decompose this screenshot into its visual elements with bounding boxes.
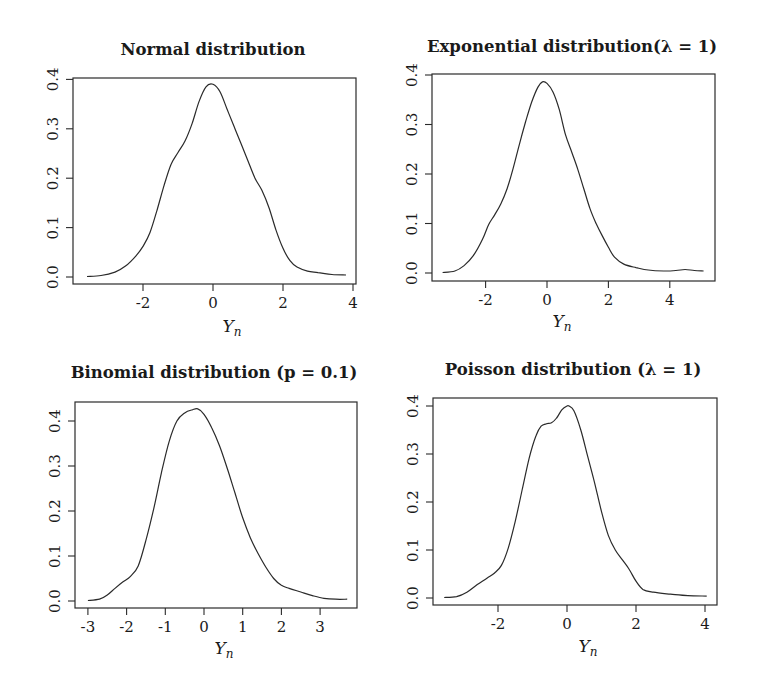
y-tick-label: 0.0 bbox=[403, 261, 421, 285]
y-tick-label: 0.3 bbox=[44, 117, 62, 141]
y-tick-label: 0.2 bbox=[403, 162, 421, 186]
x-tick-label: -2 bbox=[478, 291, 493, 309]
y-tick-label: 0.4 bbox=[403, 63, 421, 87]
x-tick-label: 0 bbox=[208, 294, 218, 312]
x-tick-label: -1 bbox=[158, 618, 173, 636]
y-tick-label: 0.3 bbox=[404, 442, 422, 466]
density-curve bbox=[87, 84, 346, 277]
x-tick-label: -2 bbox=[491, 615, 506, 633]
y-tick-label: 0.2 bbox=[404, 490, 422, 514]
plot-frame bbox=[432, 74, 715, 281]
x-tick-label: 4 bbox=[700, 615, 710, 633]
x-tick-label: 4 bbox=[665, 291, 675, 309]
panel-title: Normal distribution bbox=[120, 40, 305, 59]
x-tick-label: 2 bbox=[604, 291, 614, 309]
x-tick-label: 3 bbox=[315, 618, 325, 636]
x-tick-label: -2 bbox=[136, 294, 151, 312]
panel-normal: Normal distribution -20240.00.10.20.30.4… bbox=[44, 40, 358, 339]
y-axis: 0.00.10.20.30.4 bbox=[403, 63, 432, 285]
y-tick-label: 0.2 bbox=[46, 499, 64, 523]
y-tick-label: 0.1 bbox=[403, 212, 421, 236]
x-tick-label: 2 bbox=[278, 294, 288, 312]
x-axis: -2024 bbox=[491, 605, 710, 633]
x-tick-label: 1 bbox=[238, 618, 248, 636]
x-axis: -3-2-10123 bbox=[81, 608, 325, 636]
y-tick-label: 0.1 bbox=[404, 538, 422, 562]
x-tick-label: 0 bbox=[562, 615, 572, 633]
panel-title: Exponential distribution(λ = 1) bbox=[427, 37, 717, 56]
panel-title: Poisson distribution (λ = 1) bbox=[445, 360, 701, 379]
y-tick-label: 0.4 bbox=[404, 394, 422, 418]
plot-frame bbox=[75, 402, 357, 608]
density-curve bbox=[443, 82, 704, 273]
x-axis: -2024 bbox=[136, 284, 358, 312]
x-tick-label: 2 bbox=[277, 618, 287, 636]
y-tick-label: 0.3 bbox=[46, 454, 64, 478]
y-axis: 0.00.10.20.30.4 bbox=[46, 409, 75, 613]
x-axis-label: Yn bbox=[553, 311, 572, 334]
panel-binomial: Binomial distribution (p = 0.1) -3-2-101… bbox=[46, 363, 357, 661]
y-tick-label: 0.0 bbox=[404, 586, 422, 610]
y-tick-label: 0.0 bbox=[46, 589, 64, 613]
y-axis: 0.00.10.20.30.4 bbox=[44, 67, 73, 288]
x-tick-label: 4 bbox=[348, 294, 358, 312]
x-tick-label: 2 bbox=[631, 615, 641, 633]
y-tick-label: 0.1 bbox=[46, 544, 64, 568]
plot-frame bbox=[433, 398, 717, 605]
x-tick-label: 0 bbox=[542, 291, 552, 309]
panel-exponential: Exponential distribution(λ = 1) -20240.0… bbox=[403, 37, 717, 334]
panel-title: Binomial distribution (p = 0.1) bbox=[71, 363, 358, 382]
y-tick-label: 0.2 bbox=[44, 166, 62, 190]
y-tick-label: 0.4 bbox=[44, 67, 62, 91]
x-axis-label: Yn bbox=[579, 636, 598, 659]
x-axis-label: Yn bbox=[223, 316, 242, 339]
x-tick-label: 0 bbox=[199, 618, 209, 636]
figure: Normal distribution -20240.00.10.20.30.4… bbox=[0, 0, 763, 690]
x-axis: -2024 bbox=[478, 281, 674, 309]
density-curve bbox=[88, 409, 347, 601]
x-tick-label: -2 bbox=[119, 618, 134, 636]
y-axis: 0.00.10.20.30.4 bbox=[404, 394, 433, 610]
x-axis-label: Yn bbox=[215, 638, 234, 661]
y-tick-label: 0.0 bbox=[44, 265, 62, 289]
y-tick-label: 0.4 bbox=[46, 409, 64, 433]
y-tick-label: 0.1 bbox=[44, 216, 62, 240]
panel-poisson: Poisson distribution (λ = 1) -20240.00.1… bbox=[404, 360, 717, 659]
y-tick-label: 0.3 bbox=[403, 113, 421, 137]
density-curve bbox=[444, 405, 707, 597]
plot-frame bbox=[73, 78, 356, 284]
x-tick-label: -3 bbox=[81, 618, 96, 636]
